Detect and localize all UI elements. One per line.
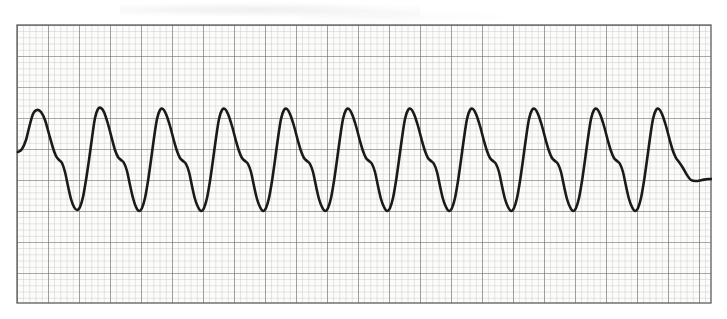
scan-artifact-smudge: [120, 2, 420, 18]
ecg-major-gridlines: [17, 25, 711, 303]
ecg-rhythm-strip: [16, 24, 712, 304]
ecg-caption: [16, 306, 712, 318]
ecg-chart: [16, 24, 712, 304]
ecg-screenshot: [0, 0, 727, 319]
